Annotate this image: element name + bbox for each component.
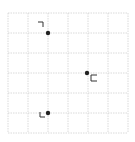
bracket-marker-icon <box>91 75 97 81</box>
point-dot <box>46 111 50 115</box>
bracket-marker-icon <box>38 22 43 27</box>
grid-diagram <box>0 0 135 142</box>
point-dot <box>46 31 50 35</box>
point-dot <box>85 71 89 75</box>
grid-lines <box>8 13 128 133</box>
